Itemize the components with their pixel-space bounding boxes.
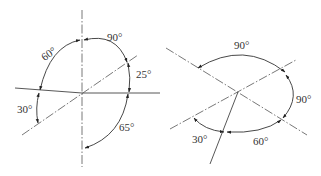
- solid-line: [210, 92, 238, 164]
- arc-25: [128, 63, 130, 92]
- angle-label: 30°: [17, 103, 32, 115]
- angle-label: 60°: [39, 44, 59, 63]
- arc-30: [37, 93, 39, 123]
- angle-label: 90°: [234, 39, 249, 51]
- angle-label: 30°: [192, 133, 207, 145]
- left-solid-line: [15, 88, 82, 93]
- arc-30: [194, 118, 224, 132]
- angle-label: 90°: [107, 31, 122, 43]
- angle-label: 60°: [253, 135, 268, 147]
- angle-label: 65°: [119, 121, 134, 133]
- angle-label: 90°: [296, 93, 311, 105]
- right-diagram: 90° 90° 30° 60°: [166, 39, 311, 164]
- arc-60: [227, 120, 281, 132]
- angle-diagram-canvas: 90° 60° 25° 30° 65° 90° 90° 30° 60°: [0, 0, 321, 176]
- ascending-centerline: [170, 60, 296, 129]
- arc-top-90: [198, 55, 285, 72]
- angle-label: 25°: [136, 68, 151, 80]
- left-diagram: 90° 60° 25° 30° 65°: [15, 10, 160, 167]
- arc-right-90: [283, 75, 293, 118]
- descending-centerline: [166, 48, 307, 135]
